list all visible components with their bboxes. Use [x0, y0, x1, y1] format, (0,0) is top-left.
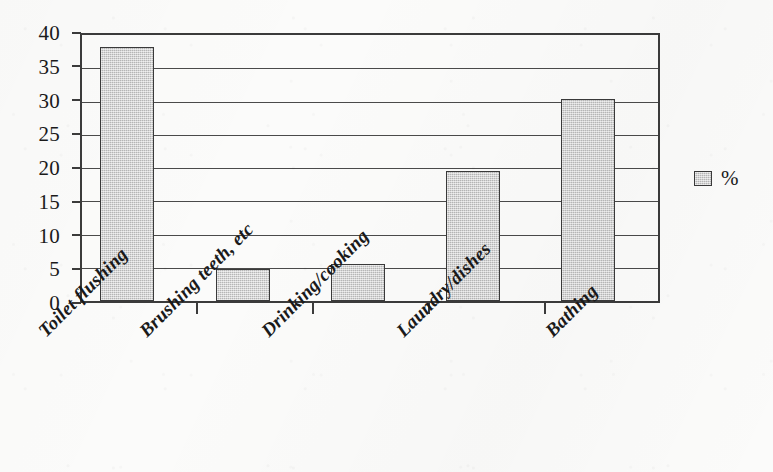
bar-brushing-teeth[interactable] [216, 269, 270, 301]
y-tick-label-20: 20 [38, 158, 60, 179]
x-tick-mark-1 [196, 303, 198, 314]
x-tick-mark-2 [312, 303, 314, 314]
y-tick-label-15: 15 [38, 191, 60, 212]
y-tick-label-10: 10 [38, 225, 60, 246]
y-tick-label-35: 35 [38, 56, 60, 77]
y-tick-mark-20 [72, 167, 81, 169]
y-tick-mark-15 [72, 201, 81, 203]
y-axis: 40 35 30 25 20 15 10 5 0 [18, 33, 68, 303]
y-tick-label-5: 5 [49, 259, 60, 280]
y-tick-mark-0 [72, 302, 81, 304]
y-tick-mark-30 [72, 99, 81, 101]
y-tick-label-40: 40 [38, 23, 60, 44]
y-tick-mark-40 [72, 32, 81, 34]
bar-chart-figure: 40 35 30 25 20 15 10 5 0 Toilet flushing… [0, 0, 773, 472]
y-tick-mark-10 [72, 234, 81, 236]
y-tick-mark-5 [72, 268, 81, 270]
gridline-35 [82, 68, 658, 69]
legend-swatch-percent [694, 171, 712, 186]
x-tick-mark-4 [544, 303, 546, 314]
legend: % [694, 168, 739, 189]
bar-bathing[interactable] [561, 99, 615, 301]
legend-label-percent: % [721, 168, 739, 189]
y-tick-label-25: 25 [38, 124, 60, 145]
plot-area [80, 33, 660, 303]
y-tick-label-30: 30 [38, 90, 60, 111]
y-tick-mark-35 [72, 65, 81, 67]
y-tick-mark-25 [72, 133, 81, 135]
